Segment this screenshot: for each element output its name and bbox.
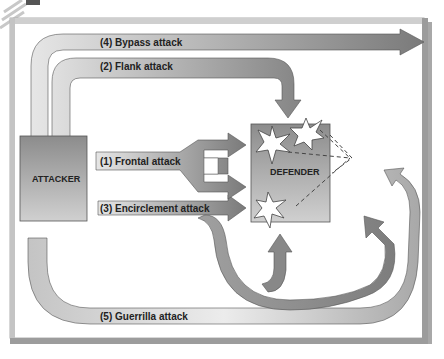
attacker-label: ATTACKER: [32, 174, 81, 184]
diagram-frame: (4) Bypass attack (2) Flank attack (1) F…: [0, 0, 444, 359]
bypass-attack-label: (4) Bypass attack: [100, 37, 183, 48]
flank-attack-label: (2) Flank attack: [100, 61, 173, 72]
encirclement-attack-label: (3) Encirclement attack: [100, 203, 210, 214]
defender-label: DEFENDER: [270, 167, 320, 177]
frontal-attack-label: (1) Frontal attack: [100, 156, 181, 167]
guerrilla-attack-label: (5) Guerrilla attack: [100, 311, 188, 322]
